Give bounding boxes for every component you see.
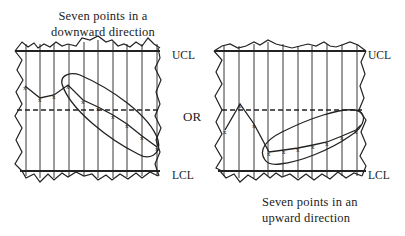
left-caption-line1: Seven points in a xyxy=(38,8,168,24)
svg-text:x: x xyxy=(311,143,315,151)
svg-text:x: x xyxy=(111,113,115,121)
left-torn-right-edge xyxy=(155,48,161,176)
left-data-line xyxy=(25,85,157,147)
svg-text:x: x xyxy=(340,134,344,142)
svg-text:x: x xyxy=(267,150,271,158)
right-trend-ellipse xyxy=(262,110,363,165)
svg-text:x: x xyxy=(252,122,256,130)
svg-text:x: x xyxy=(125,122,129,130)
svg-text:x: x xyxy=(52,93,56,101)
right-torn-top-edge xyxy=(214,40,366,51)
svg-text:x: x xyxy=(238,102,242,110)
left-data-points: xxx xxx xxx x xyxy=(23,83,159,153)
svg-text:x: x xyxy=(296,146,300,154)
right-torn-bottom-edge xyxy=(220,171,362,182)
or-separator-label: OR xyxy=(183,109,201,125)
svg-text:x: x xyxy=(140,134,144,142)
svg-text:x: x xyxy=(325,140,329,148)
svg-text:x: x xyxy=(282,148,286,156)
right-torn-left-edge xyxy=(214,51,222,171)
svg-text:x: x xyxy=(223,128,227,136)
left-caption-line2: downward direction xyxy=(38,24,168,40)
left-torn-bottom-edge xyxy=(22,171,158,182)
svg-text:x: x xyxy=(155,145,159,153)
right-ucl-label: UCL xyxy=(368,49,391,61)
svg-text:x: x xyxy=(96,105,100,113)
right-caption-line2: upward direction xyxy=(262,210,374,226)
svg-text:x: x xyxy=(354,128,358,136)
svg-text:x: x xyxy=(81,98,85,106)
svg-text:x: x xyxy=(23,84,27,92)
right-control-chart xyxy=(214,40,366,182)
left-vertical-gridlines xyxy=(26,40,157,178)
right-lcl-label: LCL xyxy=(368,169,390,181)
left-control-chart xyxy=(15,36,161,182)
left-ucl-label: UCL xyxy=(172,49,195,61)
left-caption: Seven points in a downward direction xyxy=(38,8,168,40)
left-torn-left-edge xyxy=(15,51,23,171)
svg-text:x: x xyxy=(66,83,70,91)
left-lcl-label: LCL xyxy=(172,169,194,181)
svg-text:x: x xyxy=(38,96,42,104)
right-caption-line1: Seven points in an xyxy=(262,194,374,210)
right-caption: Seven points in an upward direction xyxy=(262,194,374,226)
